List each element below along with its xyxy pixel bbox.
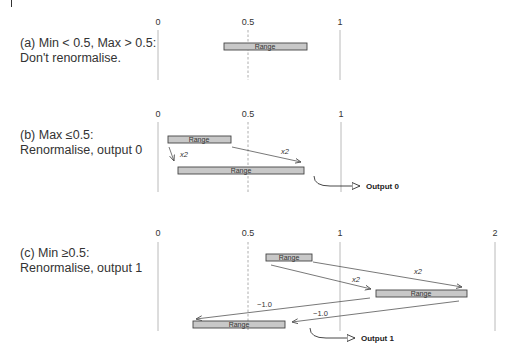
panel-b-arrow-min-label: x2 [179,150,189,159]
panel-b-tick-0-5: 0.5 [242,109,255,119]
panel-b-arrow-min-x2 [169,147,174,161]
panel-c-range-label-shifted: Range [229,321,250,329]
panel-c-arrow-min-shift-label: −1.0 [257,300,272,309]
panel-a-tick-0: 0 [155,17,160,27]
panel-a: 0 0.5 1 Range [155,17,342,80]
panel-c-tick-0-5: 0.5 [242,228,255,238]
panel-b-tick-0: 0 [155,109,160,119]
panel-b-output-arrow-icon [314,176,360,186]
panel-c-arrow-min-label: x2 [351,275,361,284]
panel-b-output-label: Output 0 [366,182,399,191]
diagram-canvas: 0 0.5 1 Range 0 0.5 1 Range Range x2 x2 … [0,0,512,352]
panel-b-range-label-original: Range [189,136,210,144]
panel-b: 0 0.5 1 Range Range x2 x2 Output 0 [155,109,399,192]
panel-c-arrow-max-x2 [313,262,462,287]
panel-c-tick-1: 1 [337,228,342,238]
panel-b-tick-1: 1 [338,109,343,119]
panel-a-tick-1: 1 [337,17,342,27]
panel-a-tick-0-5: 0.5 [242,17,255,27]
panel-c-output-label: Output 1 [361,334,394,343]
panel-c-arrow-max-label: x2 [413,267,423,276]
panel-c: 0 0.5 1 2 Range Range Range x2 x2 −1.0 −… [155,228,497,343]
panel-c-output-arrow-icon [310,328,355,338]
panel-c-range-label-scaled: Range [411,290,432,298]
panel-b-arrow-max-label: x2 [280,147,290,156]
panel-c-range-label-original: Range [279,254,300,262]
panel-c-arrow-max-shift-label: −1.0 [313,309,328,318]
panel-b-arrow-max-x2 [232,147,301,162]
panel-c-tick-2: 2 [492,228,497,238]
panel-c-tick-0: 0 [155,228,160,238]
panel-b-range-label-scaled: Range [231,167,252,175]
panel-a-range-label: Range [255,43,276,51]
